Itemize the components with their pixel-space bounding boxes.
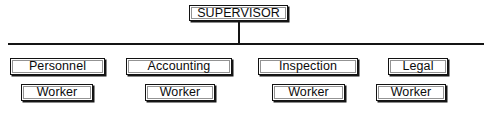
connector-vertical-stem: [238, 21, 240, 45]
org-node-inspection: Inspection: [258, 58, 358, 75]
org-node-inspection-label: Inspection: [279, 60, 337, 73]
org-node-worker-accounting: Worker: [145, 84, 215, 101]
org-node-worker-accounting-label: Worker: [160, 86, 201, 99]
org-node-legal: Legal: [388, 58, 448, 75]
org-node-worker-legal-label: Worker: [391, 86, 432, 99]
org-node-worker-personnel-label: Worker: [37, 86, 78, 99]
org-node-legal-label: Legal: [402, 60, 433, 73]
org-chart-canvas: SUPERVISOR Personnel Accounting Inspecti…: [0, 0, 492, 130]
org-node-personnel: Personnel: [10, 58, 105, 75]
org-node-personnel-label: Personnel: [29, 60, 86, 73]
org-node-worker-legal: Worker: [376, 84, 446, 101]
org-node-accounting-label: Accounting: [148, 60, 211, 73]
connector-horizontal-bus: [8, 43, 484, 45]
org-node-accounting: Accounting: [126, 58, 232, 75]
org-node-worker-inspection: Worker: [272, 84, 345, 101]
org-node-worker-personnel: Worker: [21, 84, 93, 101]
org-node-supervisor-label: SUPERVISOR: [197, 7, 280, 20]
org-node-worker-inspection-label: Worker: [288, 86, 329, 99]
org-node-supervisor: SUPERVISOR: [189, 5, 288, 21]
